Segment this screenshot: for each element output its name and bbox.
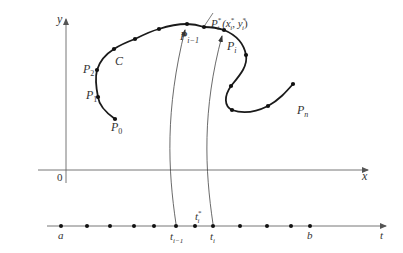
tick xyxy=(265,224,269,228)
map-arrow-t-i-minus-1 xyxy=(170,30,185,224)
mapping-arrows xyxy=(170,30,222,224)
curve-label-c: C xyxy=(115,54,124,68)
point-p-i-minus-1 xyxy=(185,22,189,26)
label-p-star-i: P*i(x*i, y*i) xyxy=(210,16,248,32)
label-p2: P2 xyxy=(82,62,94,78)
curve-point xyxy=(157,27,161,31)
label-b: b xyxy=(307,229,313,241)
curve-point xyxy=(229,84,233,88)
tick xyxy=(152,224,156,228)
point-p-n xyxy=(291,82,295,86)
tick-t-i xyxy=(211,224,215,228)
tick xyxy=(238,224,242,228)
point-p2 xyxy=(95,68,99,72)
label-t-i-minus-1: ti−1 xyxy=(170,230,183,245)
label-p-i: Pi xyxy=(226,39,237,55)
label-p0: P0 xyxy=(110,120,122,136)
tick-a xyxy=(59,224,63,228)
curve-point xyxy=(244,53,248,57)
curve-partition-diagram: y x 0 C P0 P1 P2 Pi−1 Pi Pn P*i(x*i, xyxy=(0,0,403,253)
origin-label: 0 xyxy=(57,171,63,183)
label-a: a xyxy=(58,229,64,241)
map-arrow-t-i xyxy=(207,36,222,224)
tick-t-star-i xyxy=(193,224,197,228)
x-axis-label: x xyxy=(361,169,368,183)
x-axis: x 0 xyxy=(38,169,368,183)
label-p1: P1 xyxy=(85,88,97,104)
tick xyxy=(289,224,293,228)
y-axis: y xyxy=(56,12,66,183)
label-t-star-i: t*i xyxy=(195,209,202,225)
tick xyxy=(85,224,89,228)
curve-point xyxy=(133,37,137,41)
tick xyxy=(108,224,112,228)
point-p-star-i xyxy=(202,25,206,29)
curve-point xyxy=(266,104,270,108)
t-axis: a b t ti−1 ti t*i xyxy=(47,209,386,245)
tick xyxy=(132,224,136,228)
tick-b xyxy=(308,224,312,228)
y-axis-label: y xyxy=(56,12,63,26)
label-t-i: ti xyxy=(210,230,215,245)
curve-point xyxy=(230,108,234,112)
tick-t-i-minus-1 xyxy=(174,224,178,228)
t-axis-label: t xyxy=(380,229,384,241)
label-p-n: Pn xyxy=(296,103,308,119)
curve-point xyxy=(112,47,116,51)
